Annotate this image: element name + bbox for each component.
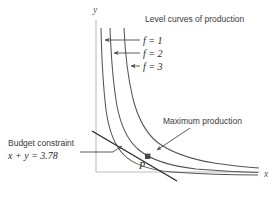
budget-constraint-label: Budget constraint: [8, 139, 74, 148]
maximum-production-label: Maximum production: [163, 117, 242, 126]
leader-maximum-production: [157, 128, 190, 150]
budget-constraint-line: [92, 131, 177, 181]
production-level-curves-figure: Level curves of production f = 1 f = 2 f…: [0, 0, 278, 197]
budget-constraint-equation: x + y = 3.78: [8, 151, 58, 161]
level-curves-title: Level curves of production: [145, 15, 244, 24]
label-f-equals-3: f = 3: [143, 62, 163, 72]
point-p-marker: [145, 154, 150, 159]
y-axis-label: y: [93, 6, 97, 16]
label-f-equals-1: f = 1: [143, 36, 163, 46]
point-p-label: P: [139, 161, 145, 171]
level-curve-f2: [110, 28, 258, 173]
caption-strip: [0, 190, 278, 197]
leader-budget-constraint: [80, 146, 122, 152]
axis-lines: [96, 20, 260, 172]
x-axis-label: x: [264, 170, 268, 180]
label-f-equals-2: f = 2: [143, 49, 163, 59]
level-curve-f1: [101, 28, 258, 175]
